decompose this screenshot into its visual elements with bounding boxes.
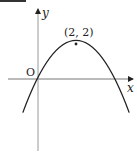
vertex-point [75, 43, 78, 46]
parabola-curve [23, 40, 129, 112]
parabola-diagram: (2, 2) O x y [0, 0, 137, 153]
origin-label: O [26, 66, 35, 79]
x-axis-label: x [127, 81, 134, 95]
vertex-label: (2, 2) [64, 26, 94, 39]
y-axis-label: y [41, 6, 49, 20]
